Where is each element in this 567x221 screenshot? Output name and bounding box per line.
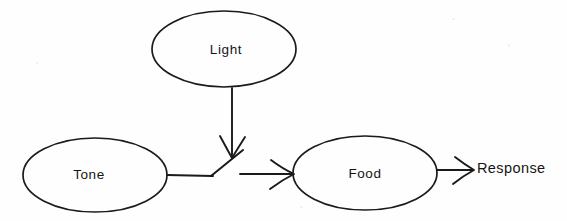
switch-contact[interactable] [211,150,243,176]
tone-out-line [167,175,213,176]
switch-arm-line [211,150,243,176]
light-label: Light [210,42,242,57]
label-response: Response [477,160,546,176]
edge-tone-to-switch[interactable] [167,175,213,176]
response-label: Response [477,160,546,176]
edge-switch-to-food[interactable] [240,160,294,189]
tone-label: Tone [73,167,105,182]
node-light[interactable]: Light [152,11,296,87]
diagram-svg: Light Tone Food [0,0,567,221]
edge-food-to-response[interactable] [437,157,474,184]
node-food[interactable]: Food [293,136,437,210]
edge-light-to-switch[interactable] [220,88,245,158]
food-label: Food [348,166,381,181]
node-tone[interactable]: Tone [23,138,167,212]
diagram-canvas: Light Tone Food [0,0,567,221]
